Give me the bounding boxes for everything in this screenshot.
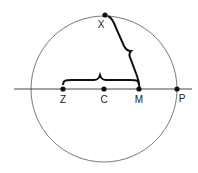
point-z	[60, 86, 65, 91]
label-m: M	[135, 94, 143, 105]
brace-xm	[108, 16, 139, 89]
point-p	[174, 86, 179, 91]
point-m	[136, 86, 141, 91]
point-c	[101, 86, 106, 91]
label-p: P	[179, 93, 186, 104]
label-c: C	[100, 94, 107, 105]
label-x: X	[98, 19, 105, 30]
label-z: Z	[60, 94, 66, 105]
geometry-diagram: XZCMP	[0, 0, 198, 173]
point-x	[102, 12, 107, 17]
brace-zm	[63, 75, 139, 85]
